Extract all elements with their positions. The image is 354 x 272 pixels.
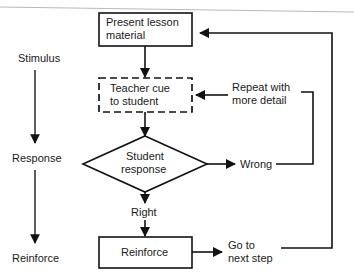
- node-student-response-line1: Student: [126, 150, 164, 162]
- edge-label-go-to-next-step-line1: Go to: [228, 239, 255, 251]
- lane-label-reinforce: Reinforce: [12, 252, 59, 264]
- edge-label-repeat-with-more-detail-line1: Repeat with: [232, 81, 290, 93]
- lane-label-response: Response: [12, 152, 62, 164]
- node-teacher-cue-to-student-line2: to student: [110, 95, 158, 107]
- edge-label-repeat-with-more-detail-line2: more detail: [232, 94, 286, 106]
- scan-artifact-line: [0, 7, 354, 12]
- node-reinforce-label: Reinforce: [121, 246, 168, 258]
- node-present-lesson-material-line2: material: [106, 29, 145, 41]
- flowchart-canvas: Stimulus Response Reinforce Present less…: [0, 0, 354, 272]
- flowchart-diagram: Stimulus Response Reinforce Present less…: [0, 0, 354, 272]
- node-teacher-cue-to-student-line1: Teacher cue: [110, 82, 170, 94]
- node-present-lesson-material-line1: Present lesson: [106, 16, 179, 28]
- edge-label-wrong: Wrong: [240, 158, 272, 170]
- lane-label-stimulus: Stimulus: [18, 52, 61, 64]
- edge-label-right: Right: [131, 206, 157, 218]
- edge-label-go-to-next-step-line2: next step: [228, 252, 273, 264]
- node-student-response-line2: response: [121, 163, 166, 175]
